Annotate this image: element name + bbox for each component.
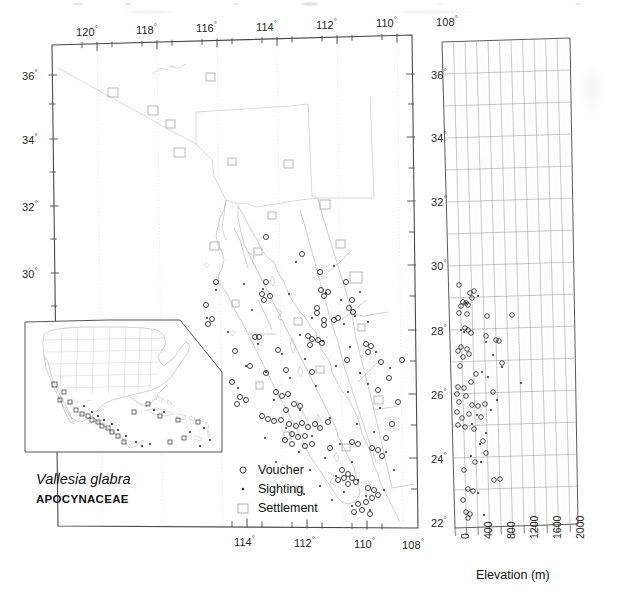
legend-sighting-icon: [242, 488, 244, 490]
elevation-tick-3: 1200: [528, 516, 540, 539]
main-map-bottom-label-2: 110°: [354, 536, 375, 550]
elevation-axis-title: Elevation (m): [476, 568, 550, 582]
elevation-tick-4: 1600: [551, 516, 563, 539]
main-map-bottom-label-1: 112°: [294, 535, 315, 549]
main-map-top-label-4: 112°: [316, 17, 337, 31]
main-map-bottom-label-0: 114°: [234, 534, 255, 548]
main-map-top-label-0: 120°: [76, 24, 98, 38]
main-map-right-label-7: 22°: [431, 515, 447, 529]
legend-item-voucher-label: Voucher: [258, 463, 304, 477]
elevation-tick-0: 0: [459, 533, 471, 539]
main-map-right-label-2: 32°: [431, 194, 447, 208]
main-map-left-label-1: 34°: [22, 132, 38, 146]
main-map-top-label-6: 108°: [436, 14, 458, 28]
main-map-left-label-2: 32°: [22, 199, 38, 213]
main-map-top-label-1: 118°: [136, 22, 157, 36]
figure-root: 120° 118° 116° 114° 112° 110° 108° 36° 3…: [0, 0, 618, 598]
main-map-top-label-2: 116°: [196, 20, 217, 34]
main-map-left-label-0: 36°: [22, 68, 38, 82]
main-map-right-label-5: 26°: [431, 387, 447, 401]
legend-item-settlement-label: Settlement: [258, 501, 318, 515]
elevation-tick-2: 800: [505, 521, 517, 539]
species-name: Vallesia glabra: [36, 471, 131, 487]
legend-item-sighting-label: Sighting: [258, 482, 303, 496]
main-map-top-label-3: 114°: [256, 19, 277, 33]
main-map-left-label-3: 30°: [22, 266, 38, 280]
main-map-right-label-6: 24°: [431, 451, 447, 465]
inset-map: [25, 320, 222, 452]
main-map-right-label-4: 28°: [431, 323, 447, 337]
main-map-frame: [52, 35, 418, 528]
main-map-right-label-1: 34°: [431, 130, 447, 144]
main-map-right-label-3: 30°: [431, 258, 447, 272]
elevation-tick-5: 2000: [574, 516, 586, 539]
main-map-right-label-0: 36°: [431, 67, 447, 81]
elevation-tick-1: 400: [482, 521, 494, 539]
main-map-bottom-label-3: 108°: [402, 537, 424, 551]
main-map-top-label-5: 110°: [376, 15, 397, 29]
family-name: APOCYNACEAE: [36, 493, 129, 505]
